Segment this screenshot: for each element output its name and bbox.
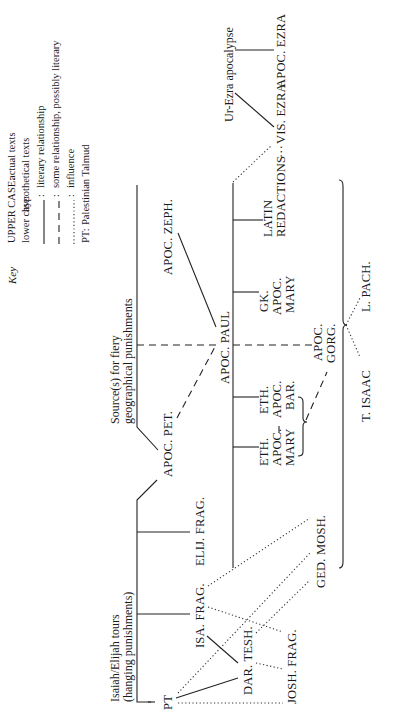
node-source-fiery: Source(s) for fiery — [108, 335, 122, 424]
edge-dar-tesh-ged-mosh — [256, 580, 310, 633]
node-eth-apoc-bar-line1: ETH. — [257, 386, 271, 414]
node-apoc-paul: APOC. PAUL — [218, 311, 232, 384]
node-eth-apoc-mary: ETH. APOC. MARY — [257, 428, 297, 466]
node-elij-frag: ELIJ. FRAG. — [193, 497, 207, 566]
node-eth-apoc-bar: ETH. APOC. BAR. — [257, 380, 297, 418]
edge-latin-vis-ezra-dots: ··· — [274, 145, 288, 158]
node-gk-apoc-mary-line2: APOC. — [270, 278, 284, 315]
key-dotted-colon: : — [65, 194, 76, 197]
edge-isa-ged-mosh — [208, 518, 310, 586]
node-apoc-gorg: APOC. GORG. — [311, 323, 338, 363]
edge-pt-dar-tesh — [176, 678, 238, 698]
node-t-isaac: T. ISAAC — [359, 370, 373, 422]
node-isa-frag: ISA. FRAG. — [193, 583, 207, 648]
node-apoc-ezra: APOC. EZRA — [274, 14, 288, 88]
node-l-pach: L. PACH. — [359, 261, 373, 312]
edge-dar-tesh-josh-frag — [256, 663, 283, 669]
edge-isa-dar-tesh — [207, 636, 238, 663]
node-eth-apoc-bar-line2: APOC. — [270, 381, 284, 418]
edge-eth-group-gorg — [306, 372, 327, 420]
node-pt: PT — [161, 695, 175, 710]
key-lower-case-meaning: hypothetical texts — [20, 138, 31, 212]
node-gk-apoc-mary-line3: MARY — [283, 275, 297, 313]
edge-isaiah-trunk — [137, 480, 157, 702]
key-dashed-meaning: some relationship, possibly literary — [50, 40, 61, 188]
edge-group-t-isaac — [346, 325, 360, 357]
node-vis-ezra: VIS. EZRA — [274, 83, 288, 144]
node-apoc-zeph: APOC. ZEPH. — [161, 199, 175, 275]
brace-eth-group — [298, 397, 307, 456]
node-isaiah-elijah-subtitle: (hanging punishments) — [121, 592, 135, 702]
key-upper-case-meaning: actual texts — [6, 132, 17, 180]
key-pt-meaning: Palestinian Talmud — [80, 144, 91, 225]
node-gk-apoc-mary-line1: GK. — [257, 290, 271, 312]
node-eth-apoc-mary-line3: MARY — [283, 428, 297, 466]
node-eth-apoc-mary-line1: ETH. — [257, 438, 271, 466]
key-solid-meaning: literary relationship — [35, 105, 46, 188]
edge-source-trunk — [137, 185, 158, 450]
edge-pet-paul — [177, 345, 216, 418]
node-dar-tesh: DAR. TESH. — [241, 626, 255, 695]
edge-zeph-paul — [178, 233, 216, 327]
node-ged-mosh: GED. MOSH. — [314, 515, 328, 588]
key-dotted-meaning: influence — [65, 149, 76, 188]
node-source-fiery-subtitle: geographical punishments — [121, 298, 135, 424]
key-upper-case-label: UPPER CASE: — [6, 178, 17, 243]
node-latin-redactions-line2: REDACTIONS — [274, 156, 288, 237]
node-apoc-gorg-line1: APOC. — [311, 324, 325, 361]
node-latin-redactions: LATIN REDACTIONS — [261, 156, 288, 237]
key-pt-label: PT: — [80, 228, 91, 243]
brace-apoc-paul-group — [339, 180, 347, 568]
node-gk-apoc-mary: GK. APOC. MARY — [257, 275, 297, 315]
key-dashed-colon: : — [50, 194, 61, 197]
edge-paul-vis-ezra — [233, 145, 272, 182]
node-apoc-pet: APOC. PET. — [161, 411, 175, 477]
edge-ur-ezra-vis-ezra — [235, 93, 274, 127]
key-legend: Key UPPER CASE: actual texts lower case:… — [6, 40, 91, 285]
node-ur-ezra-apocalypse: Ur-Ezra apocalypse — [222, 27, 236, 122]
node-josh-frag: JOSH. FRAG. — [285, 629, 299, 704]
key-solid-colon: : — [35, 194, 46, 197]
node-eth-apoc-bar-line3: BAR. — [283, 380, 297, 410]
key-title: Key — [6, 267, 18, 285]
node-eth-apoc-mary-line2: APOC. — [270, 429, 284, 466]
node-apoc-gorg-line2: GORG. — [324, 323, 338, 363]
stemma-diagram: Key UPPER CASE: actual texts lower case:… — [0, 0, 398, 717]
edge-group-l-pach — [346, 298, 360, 325]
node-isaiah-elijah-tours: Isaiah/Elijah tours — [108, 614, 122, 702]
node-latin-redactions-line1: LATIN — [261, 200, 275, 237]
